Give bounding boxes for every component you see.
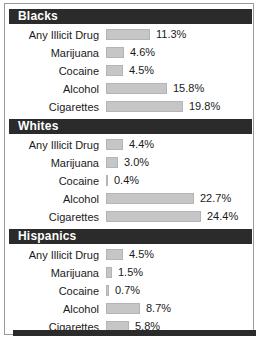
bar-value-label: 4.6% xyxy=(130,46,155,59)
chart-row: Cigarettes24.4% xyxy=(5,209,253,227)
bar-track xyxy=(106,303,140,314)
section-header-label: Hispanics xyxy=(18,230,77,243)
bar-value-label: 22.7% xyxy=(200,192,231,205)
bar-track xyxy=(106,65,123,76)
bar-value-label: 0.4% xyxy=(114,174,139,187)
chart-row: Cocaine0.4% xyxy=(5,173,253,191)
chart-row: Any Illicit Drug11.3% xyxy=(5,27,253,45)
chart-row: Cocaine4.5% xyxy=(5,63,253,81)
section-header-label: Blacks xyxy=(18,10,58,23)
bar xyxy=(106,285,109,296)
row-label: Marijuana xyxy=(5,47,99,60)
bar-value-label: 4.4% xyxy=(129,138,154,151)
bar xyxy=(106,267,112,278)
chart-frame: BlacksAny Illicit Drug11.3%Marijuana4.6%… xyxy=(4,3,254,335)
chart-row: Alcohol8.7% xyxy=(5,301,253,319)
chart-row: Cigarettes19.8% xyxy=(5,99,253,117)
footer-rule xyxy=(13,330,256,336)
bar-value-label: 0.7% xyxy=(115,284,140,297)
bar xyxy=(106,175,108,186)
section-header-blacks: Blacks xyxy=(9,9,252,24)
bar-track xyxy=(106,83,167,94)
bar-track xyxy=(106,157,118,168)
chart-row: Marijuana4.6% xyxy=(5,45,253,63)
bar-track xyxy=(106,175,108,186)
bar-track xyxy=(106,47,124,58)
bar xyxy=(106,157,118,168)
chart-row: Cocaine0.7% xyxy=(5,283,253,301)
row-label: Any Illicit Drug xyxy=(5,139,99,152)
bar-value-label: 1.5% xyxy=(118,266,143,279)
row-label: Marijuana xyxy=(5,267,99,280)
bar xyxy=(106,249,123,260)
bar-track xyxy=(106,285,109,296)
section-header-whites: Whites xyxy=(9,119,252,134)
row-label: Cocaine xyxy=(5,175,99,188)
bar xyxy=(106,47,124,58)
bar xyxy=(106,193,194,204)
chart-row: Marijuana3.0% xyxy=(5,155,253,173)
row-label: Cigarettes xyxy=(5,101,99,114)
bar-track xyxy=(106,29,150,40)
bar-track xyxy=(106,139,123,150)
row-label: Alcohol xyxy=(5,303,99,316)
bar-value-label: 19.8% xyxy=(189,100,220,113)
bar-track xyxy=(106,249,123,260)
bar xyxy=(106,101,183,112)
row-label: Any Illicit Drug xyxy=(5,29,99,42)
row-label: Alcohol xyxy=(5,193,99,206)
section-header-hispanics: Hispanics xyxy=(9,229,252,244)
bar-track xyxy=(106,193,194,204)
chart-row: Marijuana1.5% xyxy=(5,265,253,283)
chart-row: Alcohol15.8% xyxy=(5,81,253,99)
bar xyxy=(106,211,201,222)
bar-value-label: 15.8% xyxy=(173,82,204,95)
bar-value-label: 8.7% xyxy=(146,302,171,315)
bar-value-label: 4.5% xyxy=(129,248,154,261)
row-label: Cigarettes xyxy=(5,211,99,224)
bar xyxy=(106,83,167,94)
row-label: Cocaine xyxy=(5,65,99,78)
bar-value-label: 24.4% xyxy=(207,210,238,223)
chart-row: Alcohol22.7% xyxy=(5,191,253,209)
bar xyxy=(106,65,123,76)
section-header-label: Whites xyxy=(18,120,59,133)
bar-track xyxy=(106,267,112,278)
row-label: Marijuana xyxy=(5,157,99,170)
bar-value-label: 4.5% xyxy=(129,64,154,77)
row-label: Any Illicit Drug xyxy=(5,249,99,262)
bar-track xyxy=(106,211,201,222)
bar-value-label: 11.3% xyxy=(156,28,186,41)
bar xyxy=(106,303,140,314)
bar-value-label: 3.0% xyxy=(124,156,149,169)
chart-row: Any Illicit Drug4.4% xyxy=(5,137,253,155)
chart-row: Any Illicit Drug4.5% xyxy=(5,247,253,265)
row-label: Cocaine xyxy=(5,285,99,298)
bar-track xyxy=(106,101,183,112)
bar xyxy=(106,29,150,40)
bar xyxy=(106,139,123,150)
row-label: Alcohol xyxy=(5,83,99,96)
